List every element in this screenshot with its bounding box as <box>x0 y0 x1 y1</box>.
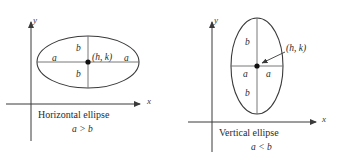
horizontal-caption: Horizontal ellipse <box>38 110 109 120</box>
horizontal-semi-major-left-label: a <box>52 54 57 64</box>
horizontal-x-axis-label: x <box>147 97 151 106</box>
vertical-y-axis-label: y <box>214 16 218 25</box>
horizontal-semi-minor-bottom-label: b <box>76 70 81 80</box>
horizontal-y-axis-label: y <box>33 16 37 25</box>
horizontal-semi-major-right-label: a <box>124 54 129 64</box>
ellipse-figure: y x a a b b (h, k) Horizontal ellipse a … <box>0 0 338 160</box>
vertical-relation: a < b <box>251 143 272 153</box>
vertical-semi-major-top-label: b <box>245 38 250 48</box>
horizontal-relation: a > b <box>72 125 93 135</box>
horizontal-semi-minor-top-label: b <box>76 44 81 54</box>
vertical-x-axis-label: x <box>322 115 326 124</box>
vertical-center-label: (h, k) <box>286 44 306 54</box>
horizontal-center-label: (h, k) <box>92 53 112 63</box>
diagram-vector-layer <box>0 0 338 160</box>
vertical-semi-major-bottom-label: b <box>245 89 250 99</box>
horizontal-ellipse-center-point <box>85 59 90 64</box>
vertical-ellipse-center-point <box>254 63 259 68</box>
vertical-center-callout-arrow <box>262 52 285 63</box>
vertical-semi-minor-left-label: a <box>243 70 248 80</box>
vertical-caption: Vertical ellipse <box>219 128 279 138</box>
vertical-semi-minor-right-label: a <box>266 70 271 80</box>
